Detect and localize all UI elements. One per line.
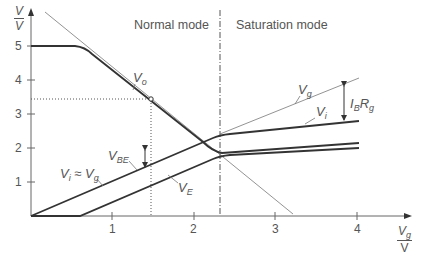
vg-curve [220, 78, 359, 134]
y-tick-3: 3 [15, 107, 22, 121]
saturation-mode-label: Saturation mode [236, 18, 328, 32]
y-tick-1: 1 [15, 175, 22, 189]
x-tick-1: 1 [109, 222, 116, 236]
y-tick-4: 4 [15, 73, 22, 87]
vo-label: Vo [133, 70, 147, 87]
chart-canvas [0, 0, 428, 256]
ibrg-label: IBRg [350, 96, 374, 113]
x-tick-2: 2 [190, 222, 197, 236]
y-tick-5: 5 [15, 39, 22, 53]
x-tick-4: 4 [354, 222, 361, 236]
load-line [45, 12, 293, 214]
vo-curve [31, 46, 359, 153]
x-tick-3: 3 [272, 222, 279, 236]
vi-approx-vg-label: Vi ≈ Vg [60, 166, 99, 183]
vbe-label: VBE [108, 148, 129, 165]
vg-label: Vg [298, 82, 312, 99]
y-axis-label: V V [14, 4, 24, 33]
y-tick-2: 2 [15, 141, 22, 155]
operating-point-marker [149, 97, 153, 101]
x-axis-label: Vg V [397, 224, 412, 255]
ve-label: VE [178, 180, 193, 197]
vi-label: Vi [316, 104, 327, 121]
leader-lines [97, 84, 315, 186]
normal-mode-label: Normal mode [134, 18, 209, 32]
